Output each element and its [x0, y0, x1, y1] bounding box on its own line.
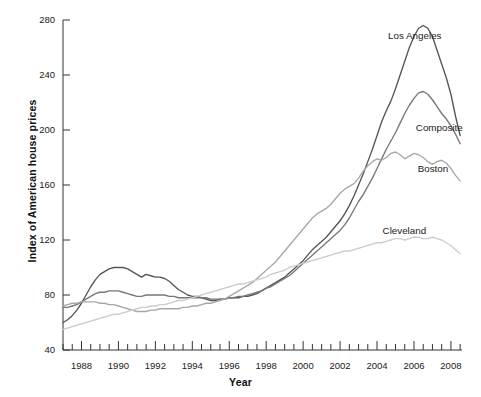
x-tick-label: 2002	[320, 360, 360, 371]
x-tick-label: 2006	[394, 360, 434, 371]
y-tick-label: 240	[23, 69, 55, 80]
series-label-boston: Boston	[418, 163, 449, 174]
x-axis-title: Year	[0, 376, 481, 388]
x-tick-label: 1996	[209, 360, 249, 371]
chart-plot-area	[0, 0, 481, 397]
y-tick-label: 200	[23, 124, 55, 135]
series-label-cleveland: Cleveland	[383, 225, 427, 236]
y-tick-label: 280	[23, 14, 55, 25]
y-tick-label: 80	[23, 289, 55, 300]
x-tick-label: 2008	[431, 360, 471, 371]
x-tick-label: 1990	[98, 360, 138, 371]
axis-ticks	[63, 20, 460, 350]
y-tick-label: 120	[23, 234, 55, 245]
x-tick-label: 2004	[357, 360, 397, 371]
series-lines	[63, 26, 460, 330]
series-label-composite: Composite	[416, 122, 463, 133]
x-tick-label: 1994	[172, 360, 212, 371]
x-tick-label: 1992	[135, 360, 175, 371]
x-tick-label: 1988	[61, 360, 101, 371]
house-price-chart-figure: Index of American house prices Year 4080…	[0, 0, 481, 397]
x-tick-label: 2000	[283, 360, 323, 371]
y-tick-label: 160	[23, 179, 55, 190]
series-line-cleveland	[63, 237, 460, 329]
series-label-los-angeles: Los Angeles	[388, 30, 441, 41]
y-tick-label: 40	[23, 344, 55, 355]
x-tick-label: 1998	[246, 360, 286, 371]
